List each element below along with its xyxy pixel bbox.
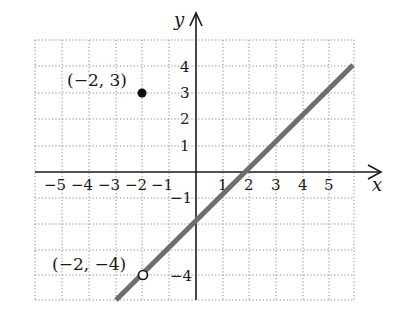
y-tick: −4	[170, 267, 192, 285]
open-point	[139, 271, 148, 280]
x-tick: −5	[44, 176, 66, 194]
y-tick: 4	[180, 58, 190, 76]
coordinate-plane: x y −5 −4 −3 −2 −1 1 2 3 4 5 4 3 2 1 −1 …	[0, 0, 401, 324]
open-point-label: (−2, −4)	[52, 254, 126, 274]
x-axis-label: x	[372, 174, 382, 195]
y-tick: 3	[180, 84, 190, 102]
x-tick: 3	[271, 176, 281, 194]
y-tick: 2	[180, 110, 190, 128]
x-tick: 5	[324, 176, 334, 194]
y-axis-label: y	[173, 9, 185, 30]
x-tick: −2	[125, 176, 147, 194]
y-tick: −1	[170, 189, 192, 207]
x-tick: 4	[298, 176, 308, 194]
x-tick: 2	[244, 176, 254, 194]
x-tick: −4	[71, 176, 93, 194]
filled-point	[138, 89, 147, 98]
filled-point-label: (−2, 3)	[67, 70, 127, 90]
x-tick: −3	[98, 176, 120, 194]
y-tick: 1	[180, 137, 190, 155]
